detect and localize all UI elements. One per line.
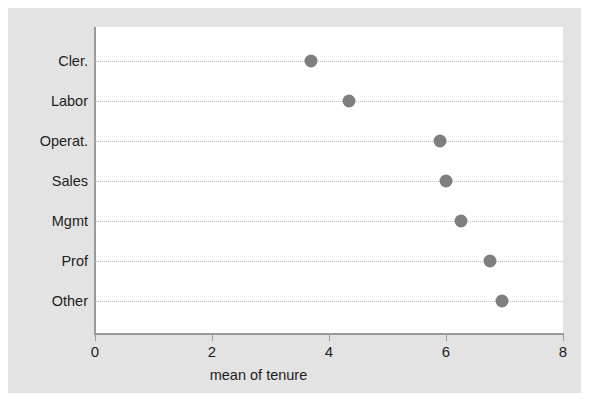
x-axis-tick-label: 8 xyxy=(559,343,567,360)
x-axis-tick-mark xyxy=(212,335,213,341)
gridline xyxy=(95,181,563,182)
x-axis-tick-mark xyxy=(95,335,96,341)
x-axis-title: mean of tenure xyxy=(0,367,589,383)
x-axis-tick-mark xyxy=(563,335,564,341)
data-point xyxy=(440,175,453,188)
gridline xyxy=(95,301,563,302)
data-point xyxy=(483,255,496,268)
gridline xyxy=(95,221,563,222)
data-point xyxy=(454,215,467,228)
data-point xyxy=(495,295,508,308)
gridline xyxy=(95,141,563,142)
chart-figure: Cler.LaborOperat.SalesMgmtProfOther 0246… xyxy=(0,0,589,401)
plot-area xyxy=(95,27,563,333)
gridline xyxy=(95,101,563,102)
x-axis-tick-label: 2 xyxy=(208,343,216,360)
y-axis-tick-label: Labor xyxy=(2,93,88,109)
y-axis-tick-label: Mgmt xyxy=(2,213,88,229)
x-axis-tick-label: 6 xyxy=(442,343,450,360)
data-point xyxy=(343,95,356,108)
y-axis-tick-label: Operat. xyxy=(2,133,88,149)
x-axis-tick-label: 4 xyxy=(325,343,333,360)
x-axis-title-text: mean of tenure xyxy=(210,367,308,383)
x-axis-tick-label: 0 xyxy=(91,343,99,360)
x-axis-tick-mark xyxy=(446,335,447,341)
y-axis-tick-label: Sales xyxy=(2,173,88,189)
y-axis-tick-label: Cler. xyxy=(2,53,88,69)
gridline xyxy=(95,61,563,62)
y-axis-tick-labels: Cler.LaborOperat.SalesMgmtProfOther xyxy=(0,0,88,401)
data-point xyxy=(305,55,318,68)
data-point xyxy=(434,135,447,148)
y-axis-tick-label: Prof xyxy=(2,253,88,269)
x-axis-tick-mark xyxy=(329,335,330,341)
y-axis-tick-label: Other xyxy=(2,293,88,309)
